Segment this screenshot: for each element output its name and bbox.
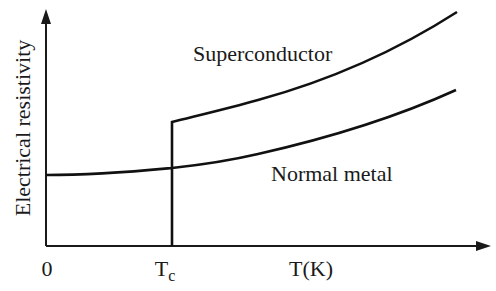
- y-axis-arrow-icon: [41, 9, 51, 24]
- resistivity-vs-temperature-diagram: Electrical resistivity 0 Tc T(K) Superco…: [0, 0, 496, 291]
- tc-label: Tc: [155, 256, 176, 284]
- origin-label: 0: [42, 256, 53, 281]
- normal-metal-label: Normal metal: [271, 161, 393, 186]
- x-axis-arrow-icon: [476, 241, 491, 251]
- x-axis-label: T(K): [289, 256, 333, 281]
- tc-label-main: T: [155, 256, 169, 281]
- y-axis-label: Electrical resistivity: [10, 40, 35, 217]
- superconductor-label: Superconductor: [193, 41, 333, 66]
- tc-label-subscript: c: [168, 267, 175, 284]
